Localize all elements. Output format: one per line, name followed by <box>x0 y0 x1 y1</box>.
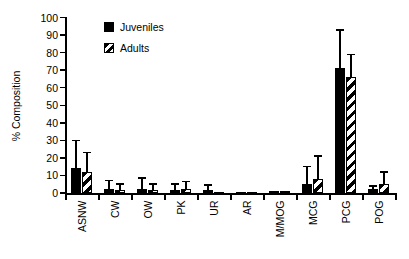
x-tick <box>263 195 265 200</box>
error-bar-cap <box>83 152 91 154</box>
error-bar-cap <box>171 183 179 185</box>
y-tick-label: 60 <box>28 82 58 94</box>
error-bar-line <box>152 184 154 190</box>
y-tick-label: 30 <box>28 134 58 146</box>
legend-label-juveniles: Juveniles <box>120 21 164 33</box>
error-bar-cap <box>182 181 190 183</box>
error-bar-cap <box>369 185 377 187</box>
bar-juveniles-cw <box>104 189 114 193</box>
x-tick <box>296 195 298 200</box>
x-axis-label: AR <box>240 201 253 255</box>
y-tick-label: 50 <box>28 99 58 111</box>
y-tick-label: 0 <box>28 187 58 199</box>
legend-label-adults: Adults <box>120 42 149 54</box>
error-bar-line <box>174 184 176 190</box>
x-axis-label: PCG <box>339 201 352 255</box>
x-tick <box>197 195 199 200</box>
x-tick <box>65 195 67 200</box>
y-tick <box>60 34 65 36</box>
y-tick-label: 40 <box>28 117 58 129</box>
x-tick <box>131 195 133 200</box>
error-bar-cap <box>380 171 388 173</box>
bar-juveniles-pk <box>170 190 180 193</box>
y-tick-label: 10 <box>28 169 58 181</box>
bar-adults-ur <box>214 192 224 194</box>
legend: Juveniles Adults <box>104 21 164 63</box>
x-axis-label: ASNW <box>75 201 88 255</box>
error-bar-cap <box>149 183 157 185</box>
bar-adults-ar <box>247 192 257 194</box>
error-bar-cap <box>204 184 212 186</box>
x-tick <box>98 195 100 200</box>
error-bar-line <box>306 167 308 185</box>
x-tick <box>362 195 364 200</box>
error-bar-cap <box>138 177 146 179</box>
error-bar-cap <box>347 54 355 56</box>
error-bar-line <box>317 156 319 179</box>
y-tick <box>60 140 65 142</box>
error-bar-cap <box>116 183 124 185</box>
y-tick <box>60 69 65 71</box>
bar-juveniles-asnw <box>71 168 81 193</box>
error-bar-line <box>339 30 341 69</box>
bar-adults-pcg <box>346 77 356 193</box>
y-axis-line <box>65 17 67 196</box>
error-bar-cap <box>336 29 344 31</box>
error-bar-cap <box>314 155 322 157</box>
legend-item-juveniles: Juveniles <box>104 21 164 33</box>
error-bar-line <box>119 184 121 190</box>
error-bar-line <box>86 153 88 172</box>
error-bar-line <box>108 181 110 189</box>
bar-juveniles-pog <box>368 189 378 193</box>
bar-adults-asnw <box>82 172 92 193</box>
error-bar-line <box>75 140 77 168</box>
bar-adults-m-mog <box>280 191 290 193</box>
y-tick <box>60 175 65 177</box>
x-axis-label: UR <box>207 201 220 255</box>
x-tick <box>395 195 397 200</box>
y-tick <box>60 105 65 107</box>
x-axis-label: MCG <box>306 201 319 255</box>
x-axis-label: POG <box>372 201 385 255</box>
error-bar-line <box>207 185 209 190</box>
x-tick <box>230 195 232 200</box>
error-bar-line <box>141 178 143 189</box>
bar-juveniles-ur <box>203 190 213 193</box>
bar-juveniles-mcg <box>302 184 312 193</box>
bar-adults-pog <box>379 184 389 193</box>
x-axis-label: OW <box>141 201 154 255</box>
y-tick <box>60 157 65 159</box>
error-bar-cap <box>72 140 80 142</box>
error-bar-line <box>350 54 352 77</box>
bar-adults-cw <box>115 190 125 193</box>
y-tick <box>60 52 65 54</box>
error-bar-cap <box>105 180 113 182</box>
bar-juveniles-ar <box>236 192 246 194</box>
bar-adults-ow <box>148 190 158 193</box>
y-tick <box>60 192 65 194</box>
plot-area: 0102030405060708090100ASNWCWOWPKURARM/MO… <box>0 0 409 259</box>
y-tick-label: 90 <box>28 29 58 41</box>
error-bar-line <box>383 172 385 184</box>
bar-adults-pk <box>181 189 191 193</box>
y-tick-label: 80 <box>28 47 58 59</box>
legend-swatch-solid-icon <box>104 22 114 32</box>
y-tick <box>60 87 65 89</box>
y-tick-label: 100 <box>28 12 58 24</box>
bar-chart-figure: % Composition 0102030405060708090100ASNW… <box>0 0 409 259</box>
x-tick <box>329 195 331 200</box>
y-tick-label: 70 <box>28 64 58 76</box>
bar-juveniles-pcg <box>335 68 345 193</box>
error-bar-cap <box>303 166 311 168</box>
x-axis-label: CW <box>108 201 121 255</box>
bar-juveniles-m-mog <box>269 191 279 193</box>
legend-item-adults: Adults <box>104 42 164 54</box>
x-axis-label: PK <box>174 201 187 255</box>
legend-swatch-hatch-icon <box>104 43 114 53</box>
bar-adults-mcg <box>313 179 323 193</box>
y-tick-label: 20 <box>28 152 58 164</box>
x-axis-label: M/MOG <box>273 201 286 255</box>
y-tick <box>60 17 65 19</box>
bar-juveniles-ow <box>137 189 147 193</box>
y-tick <box>60 122 65 124</box>
